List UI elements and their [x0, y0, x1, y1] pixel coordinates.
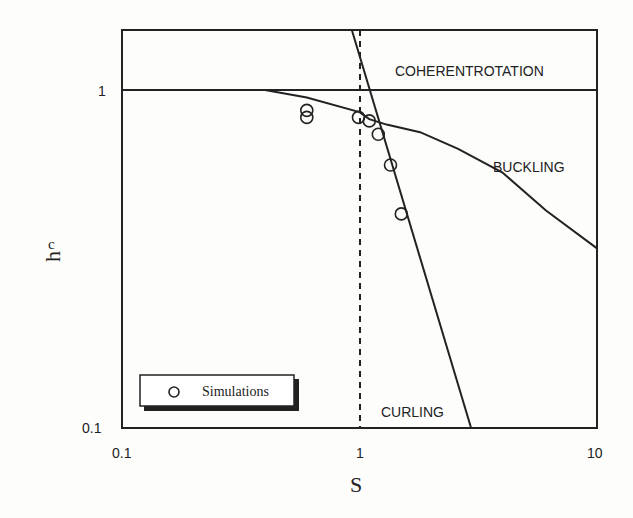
simulation-point-marker [301, 104, 313, 116]
region-label-curling: CURLING [381, 404, 444, 420]
region-label-buckling: BUCKLING [493, 159, 565, 175]
legend-label: Simulations [202, 384, 269, 399]
y-tick-1: 1 [98, 83, 106, 99]
y-axis-label: h c [40, 236, 65, 262]
x-axis-label: S [350, 472, 362, 497]
x-tick-10: 10 [587, 445, 603, 461]
y-axis-label-main: h [40, 251, 65, 262]
x-tick-1: 1 [356, 445, 364, 461]
y-tick-0.1: 0.1 [82, 420, 102, 436]
region-label-coherent-rotation: COHERENTROTATION [395, 63, 544, 79]
simulation-point-marker [395, 208, 407, 220]
x-tick-0.1: 0.1 [112, 445, 132, 461]
phase-diagram-chart: 1 0.1 0.1 1 10 S h c COHERENTROTATION BU… [0, 0, 633, 518]
legend: Simulations [140, 375, 299, 411]
y-axis-label-sub: c [48, 236, 55, 252]
simulation-point-marker [301, 111, 313, 123]
